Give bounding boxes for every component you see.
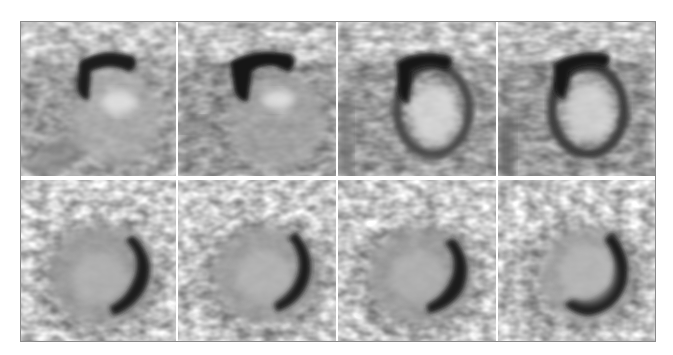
slice-panel-bottom-4 [498,180,655,341]
image-grid-frame [20,21,656,342]
cardiac-slice-image [21,22,176,176]
slice-panel-bottom-2 [178,180,336,341]
cardiac-slice-image [498,180,655,341]
slice-panel-top-4 [498,22,655,176]
slice-panel-top-1 [21,22,176,176]
slice-panel-bottom-3 [338,180,496,341]
slice-panel-top-3 [338,22,496,176]
slice-panel-bottom-1 [21,180,176,341]
cardiac-slice-image [338,22,496,176]
slice-panel-top-2 [178,22,336,176]
cardiac-slice-image [21,180,176,341]
cardiac-slice-image [338,180,496,341]
cardiac-slice-image [178,22,336,176]
cardiac-slice-image [498,22,655,176]
cardiac-slice-image [178,180,336,341]
